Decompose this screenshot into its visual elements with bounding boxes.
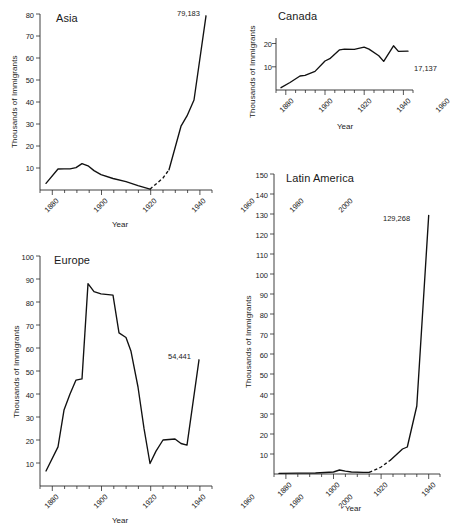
panel-asia-x-axis-label: Year: [100, 220, 140, 229]
panel-latin-america-plot: [228, 160, 456, 532]
panel-europe: Europe Thousands of Immigrants 100 90 80…: [0, 240, 228, 532]
panel-latin-america: Latin America Thousands of Immigrants 15…: [228, 160, 456, 532]
panel-canada-x-axis-label: Year: [325, 122, 365, 131]
panel-europe-plot: [0, 240, 228, 532]
panel-canada-plot: [228, 0, 456, 155]
panel-europe-x-axis-label: Year: [100, 516, 140, 525]
panel-canada: Canada Thousands of Immigrants 20 10 17,…: [228, 0, 456, 155]
panel-asia: Asia Thousands of Immigrants 80 70 60 50…: [0, 0, 228, 232]
panel-latin-america-x-axis-label: Year: [333, 504, 373, 513]
panel-asia-plot: [0, 0, 228, 232]
